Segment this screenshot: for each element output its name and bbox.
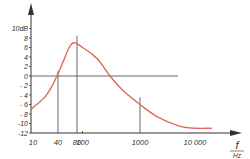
x-tick-label: 1000 (132, 138, 150, 147)
y-tick-label: - 2 (20, 82, 28, 89)
y-tick-label: 0 (24, 73, 28, 80)
y-axis-arrow-icon (28, 3, 34, 15)
y-tick-label: -10 (18, 120, 28, 127)
x-axis-label: f (235, 139, 239, 151)
y-tick-label: 6 (24, 44, 28, 51)
x-tick-label: 40 (54, 138, 63, 147)
y-tick-label: 4 (24, 54, 28, 61)
x-tick-label: 10 (29, 138, 38, 147)
y-tick-label: - 4 (20, 92, 28, 99)
x-tick-label: 10 000 (184, 138, 208, 147)
y-tick-label: -12 (18, 130, 28, 137)
x-tick-label: 100 (76, 138, 89, 147)
y-axis-ticks: 10dB86420- 2- 4- 6- 8-10-12 (12, 25, 31, 137)
chart-canvas: 10dB86420- 2- 4- 6- 8-10-12 104080100100… (0, 0, 250, 159)
y-tick-label: 8 (24, 35, 28, 42)
x-axis-unit: Hz (233, 152, 242, 159)
frequency-response-chart: 10dB86420- 2- 4- 6- 8-10-12 104080100100… (0, 0, 250, 159)
y-tick-label: - 6 (20, 101, 28, 108)
y-tick-label: - 8 (20, 111, 28, 118)
y-tick-label: 10dB (12, 25, 29, 32)
x-axis-arrow-icon (230, 130, 242, 136)
y-tick-label: 2 (23, 63, 28, 70)
